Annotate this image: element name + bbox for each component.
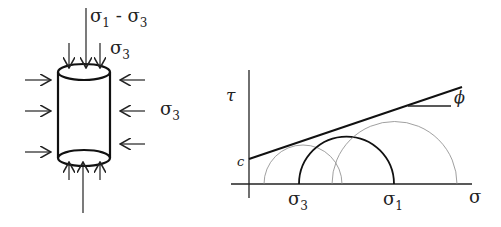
specimen-group: σ1 - σ3 σ3 σ3	[25, 5, 180, 213]
tau-label: τ	[226, 85, 236, 105]
sigma-axis-label: σ	[469, 186, 481, 207]
cohesion-label: c	[237, 154, 245, 169]
axial-stress-label: σ1 - σ3	[90, 5, 147, 30]
confining-stress-label: σ3	[160, 98, 180, 123]
mohr-circle-large	[332, 122, 457, 184]
cylinder-top	[58, 64, 110, 80]
mohr-diagram: τ c ϕ σ σ3 σ1	[226, 70, 481, 213]
failure-envelope	[249, 87, 462, 159]
phi-label: ϕ	[454, 88, 465, 107]
cylinder-bottom	[58, 150, 110, 166]
sigma3-label: σ3	[288, 188, 308, 213]
cap-stress-label: σ3	[110, 37, 130, 62]
sigma1-label: σ1	[383, 188, 403, 213]
diagram-canvas: σ1 - σ3 σ3 σ3 τ c ϕ σ σ3 σ1	[0, 0, 501, 227]
